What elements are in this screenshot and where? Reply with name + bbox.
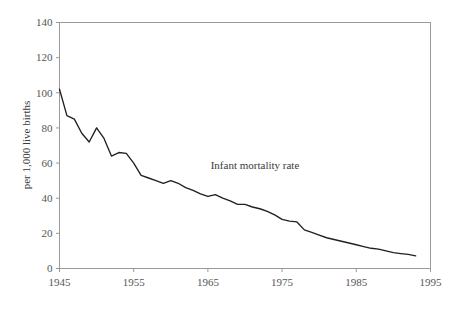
data-line-infant-mortality-rate [60,89,416,256]
y-tick-label: 140 [36,16,53,28]
y-tick-label: 60 [42,157,54,169]
y-tick-label: 40 [42,192,54,204]
line-chart-canvas: 020406080100120140 194519551965197519851… [0,0,461,309]
y-axis-tick-marks [56,23,60,269]
y-tick-label: 20 [42,227,54,239]
x-axis-tick-marks [60,269,431,273]
series-annotation-label: Infant mortality rate [211,159,300,171]
x-axis-tick-labels: 194519551965197519851995 [49,276,443,288]
y-axis-tick-labels: 020406080100120140 [36,16,53,274]
y-tick-label: 80 [42,122,54,134]
x-tick-label: 1985 [345,276,368,288]
x-tick-label: 1965 [197,276,220,288]
plot-frame [60,23,431,269]
y-tick-label: 100 [36,87,53,99]
chart-figure: 020406080100120140 194519551965197519851… [0,0,461,309]
x-tick-label: 1995 [420,276,443,288]
y-tick-label: 0 [47,262,53,274]
y-tick-label: 120 [36,51,53,63]
x-tick-label: 1955 [123,276,146,288]
y-axis-title: per 1,000 live births [20,101,32,190]
x-tick-label: 1945 [49,276,72,288]
x-tick-label: 1975 [271,276,294,288]
